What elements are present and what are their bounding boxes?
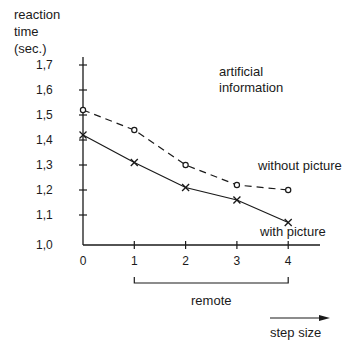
circle-marker-icon [183, 162, 188, 167]
series-line-without-picture [83, 110, 288, 190]
line-chart: 1,01,11,21,31,41,51,61,701234 without pi… [0, 0, 356, 347]
chart-title-line-2: information [219, 80, 283, 95]
x-tick-label: 2 [182, 254, 189, 268]
y-tick-label: 1,3 [36, 158, 53, 172]
remote-bracket [134, 277, 288, 283]
y-tick-label: 1,5 [36, 108, 53, 122]
remote-label: remote [191, 293, 231, 308]
series-line-with-picture [83, 135, 288, 223]
legend-label-with-picture: with picture [259, 224, 326, 239]
circle-marker-icon [286, 187, 291, 192]
x-tick-label: 1 [131, 254, 138, 268]
y-tick-label: 1,2 [36, 183, 53, 197]
x-tick-label: 0 [80, 254, 87, 268]
x-tick-label: 4 [285, 254, 292, 268]
y-tick-label: 1,1 [36, 208, 53, 222]
x-tick-label: 3 [234, 254, 241, 268]
x-axis-label: step size [270, 325, 321, 340]
chart-title-line-1: artificial [219, 64, 263, 79]
circle-marker-icon [234, 182, 239, 187]
circle-marker-icon [132, 127, 137, 132]
arrow-right-icon [319, 315, 330, 321]
y-tick-label: 1,0 [36, 238, 53, 252]
y-tick-label: 1,4 [36, 133, 53, 147]
cross-marker-icon [131, 159, 138, 166]
legend-label-without-picture: without picture [257, 158, 342, 173]
y-tick-label: 1,6 [36, 83, 53, 97]
circle-marker-icon [80, 107, 85, 112]
y-tick-label: 1,7 [36, 58, 53, 72]
